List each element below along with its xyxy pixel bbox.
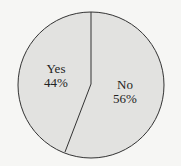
slice-pct-yes: 44%: [44, 75, 68, 90]
slice-pct-no: 56%: [113, 91, 137, 106]
pie-chart: Yes 44% No 56%: [0, 0, 181, 166]
slice-label-no: No: [117, 77, 133, 92]
slice-label-yes: Yes: [47, 61, 66, 76]
